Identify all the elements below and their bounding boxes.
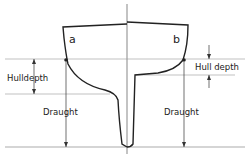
arrowhead-icon xyxy=(207,75,211,80)
label-a: a xyxy=(69,33,76,46)
arrowhead-icon xyxy=(64,142,68,147)
hull-cross-section-diagram: a b Hulldepth Hull depth Draught Draught xyxy=(0,0,250,158)
label-hull-depth-left: Hulldepth xyxy=(7,73,48,83)
label-b: b xyxy=(173,33,180,46)
label-hull-depth-right: Hull depth xyxy=(195,62,239,72)
waterline-point-a xyxy=(64,58,68,62)
arrowhead-icon xyxy=(32,89,36,94)
arrowhead-icon xyxy=(207,54,211,59)
label-draught-right: Draught xyxy=(164,107,199,117)
label-draught-left: Draught xyxy=(43,107,78,117)
waterline-point-b xyxy=(182,58,186,62)
arrowhead-icon xyxy=(182,142,186,147)
arrowhead-icon xyxy=(32,59,36,64)
